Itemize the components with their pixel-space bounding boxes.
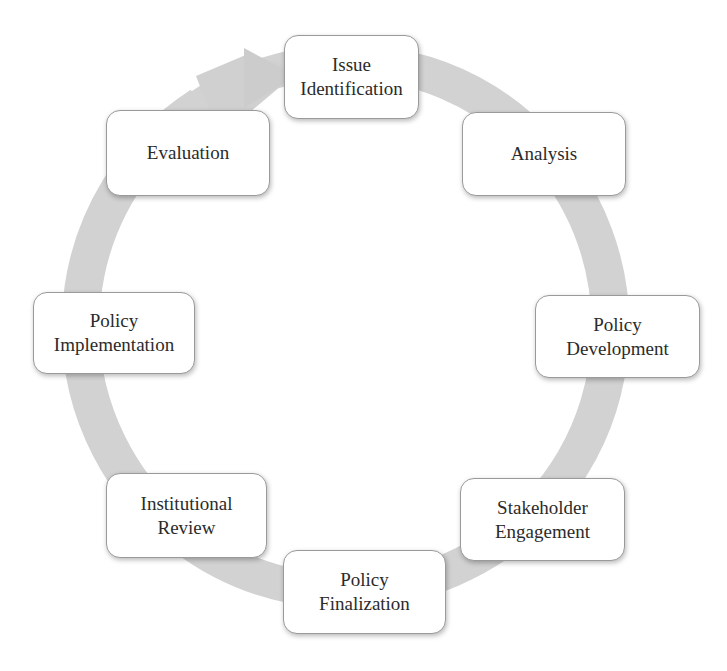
node-analysis: Analysis: [462, 112, 626, 196]
node-label: Policy Finalization: [319, 568, 410, 616]
node-stakeholder-engagement: Stakeholder Engagement: [460, 478, 625, 561]
node-label: Institutional Review: [141, 492, 233, 540]
node-label: Policy Development: [566, 313, 668, 361]
node-label: Issue Identification: [300, 53, 402, 101]
node-label: Stakeholder Engagement: [495, 496, 590, 544]
node-label: Analysis: [511, 142, 578, 166]
node-issue-identification: Issue Identification: [284, 35, 419, 119]
node-policy-implementation: Policy Implementation: [33, 292, 195, 374]
node-institutional-review: Institutional Review: [106, 473, 267, 558]
node-policy-development: Policy Development: [535, 295, 700, 378]
node-label: Evaluation: [147, 141, 229, 165]
node-label: Policy Implementation: [54, 309, 174, 357]
node-policy-finalization: Policy Finalization: [283, 550, 446, 634]
node-evaluation: Evaluation: [106, 110, 270, 196]
